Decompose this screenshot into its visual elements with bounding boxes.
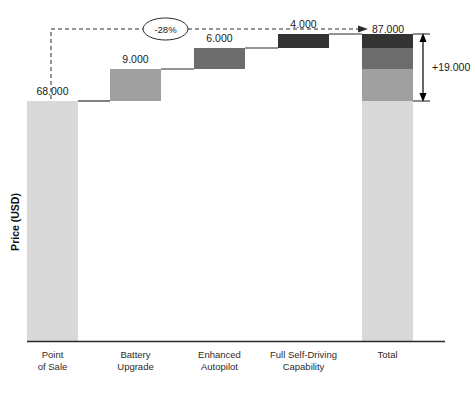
x-label-full-self-driving-line1: Full Self-Driving <box>270 349 337 360</box>
x-label-point-of-sale-line1: Point <box>42 349 64 360</box>
bar-point-of-sale <box>27 101 78 341</box>
x-label-point-of-sale-line2: of Sale <box>38 361 68 372</box>
chart-canvas: Price (USD) 68.000 9.000 6.000 4.000 <box>0 0 476 393</box>
value-label-enhanced-autopilot: 6.000 <box>206 32 232 44</box>
bar-total-fsd-segment <box>362 34 413 48</box>
x-label-total: Total <box>377 349 397 360</box>
bar-battery-upgrade <box>110 69 161 101</box>
y-axis-title: Price (USD) <box>9 193 21 251</box>
x-label-enhanced-autopilot-line1: Enhanced <box>198 349 241 360</box>
value-label-point-of-sale: 68.000 <box>36 85 68 97</box>
x-label-battery-upgrade-line2: Upgrade <box>117 361 153 372</box>
bar-total-base-segment <box>362 101 413 341</box>
delta-value-label: +19.000 <box>432 61 470 73</box>
x-label-full-self-driving-line2: Capability <box>283 361 325 372</box>
bar-total-autopilot-segment <box>362 48 413 69</box>
value-label-battery-upgrade: 9.000 <box>122 53 148 65</box>
dashed-arrowhead <box>358 26 368 33</box>
bar-enhanced-autopilot <box>194 48 245 69</box>
end-value-label: 87.000 <box>372 23 404 35</box>
x-label-enhanced-autopilot-line2: Autopilot <box>201 361 238 372</box>
percent-badge-label: -28% <box>154 24 177 35</box>
bar-total-battery-segment <box>362 69 413 101</box>
bar-full-self-driving <box>278 34 329 48</box>
x-label-battery-upgrade-line1: Battery <box>120 349 150 360</box>
waterfall-chart: Price (USD) 68.000 9.000 6.000 4.000 <box>0 0 476 393</box>
value-label-full-self-driving: 4.000 <box>290 18 316 30</box>
